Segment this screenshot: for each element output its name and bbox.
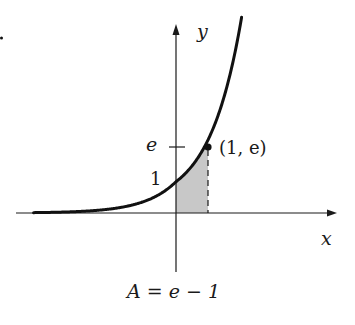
point-label: (1, e): [219, 139, 267, 157]
one-tick-label: 1: [150, 170, 161, 188]
e-tick-label: e: [146, 135, 157, 154]
area-caption: A = e − 1: [127, 282, 220, 301]
point-1-e-marker: [204, 143, 211, 150]
exponential-area-diagram: [0, 0, 355, 325]
x-axis-label: x: [321, 229, 332, 248]
x-axis-arrow-icon: [327, 210, 337, 217]
stray-dot: [0, 37, 3, 40]
exponential-curve: [34, 17, 242, 212]
y-axis-label: y: [197, 22, 208, 41]
y-axis-arrow-icon: [173, 24, 180, 35]
point-label-text: (1, e): [219, 137, 267, 158]
